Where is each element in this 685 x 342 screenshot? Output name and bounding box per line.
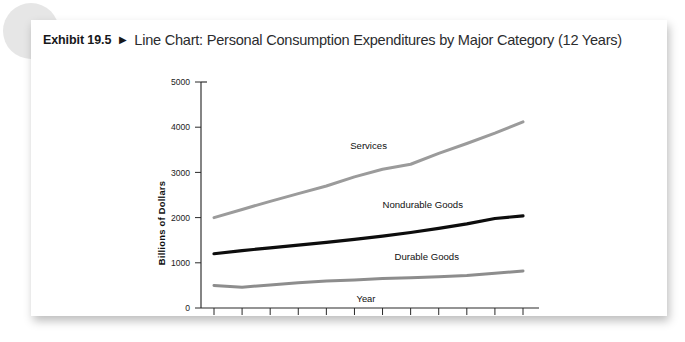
y-tick-label: 4000	[171, 122, 190, 132]
series-label-durable-goods: Durable Goods	[394, 251, 459, 262]
x-axis-title: Year	[357, 293, 376, 304]
exhibit-number: Exhibit 19.5	[43, 33, 111, 47]
series-label-services: Services	[350, 140, 387, 151]
right-triangle-icon: ▶	[119, 35, 127, 45]
series-label-nondurable-goods: Nondurable Goods	[382, 199, 463, 210]
y-tick-label: 3000	[171, 168, 190, 178]
series-line-services	[214, 122, 523, 218]
x-axis: 123456789101112	[201, 308, 539, 316]
exhibit-panel: Exhibit 19.5 ▶ Line Chart: Personal Cons…	[31, 20, 667, 316]
series-line-durable-goods	[214, 271, 523, 287]
exhibit-title: Line Chart: Personal Consumption Expendi…	[134, 32, 622, 48]
y-tick-label: 1000	[171, 258, 190, 268]
y-tick-label: 2000	[171, 213, 190, 223]
y-axis: 010002000300040005000	[171, 77, 207, 313]
y-tick-label: 5000	[171, 77, 190, 87]
chart-svg: 010002000300040005000 123456789101112 Se…	[31, 48, 667, 316]
line-chart: 010002000300040005000 123456789101112 Se…	[31, 48, 667, 316]
y-tick-label: 0	[185, 303, 190, 313]
series-labels: ServicesNondurable GoodsDurable Goods	[350, 140, 463, 262]
y-axis-title: Billions of Dollars	[156, 181, 167, 265]
series-line-nondurable-goods	[214, 216, 523, 254]
